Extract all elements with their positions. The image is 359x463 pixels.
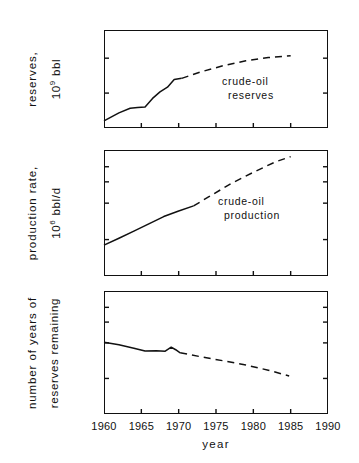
axis-title-years-remaining-line2: reserves remaining bbox=[48, 297, 60, 407]
xtick-label-1970: 1970 bbox=[166, 420, 191, 432]
axis-title-years-remaining-line1: number of years of bbox=[26, 296, 38, 408]
series-line bbox=[180, 353, 289, 376]
xtick-label-1975: 1975 bbox=[203, 420, 228, 432]
xtick-label-1990: 1990 bbox=[315, 420, 340, 432]
series-line bbox=[104, 342, 180, 353]
axis-title-base: reserves remaining bbox=[48, 297, 60, 407]
xtick-label-1965: 1965 bbox=[129, 420, 154, 432]
xtick-label-1985: 1985 bbox=[278, 420, 303, 432]
xtick-label-1980: 1980 bbox=[241, 420, 266, 432]
figure-root: 600400200100reserves,109 bblcrude-oilres… bbox=[0, 0, 359, 463]
x-axis-title: year bbox=[202, 438, 230, 450]
xtick-label-1960: 1960 bbox=[91, 420, 116, 432]
